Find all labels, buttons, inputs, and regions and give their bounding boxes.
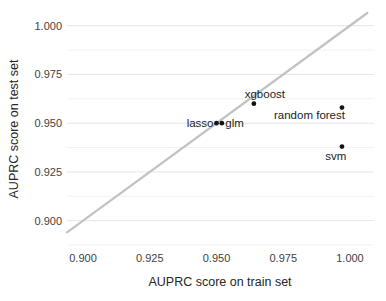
x-tick-label: 0.950	[203, 252, 231, 264]
x-tick-label: 0.975	[269, 252, 297, 264]
point-label: glm	[225, 117, 244, 129]
point-label: random forest	[274, 109, 346, 121]
point-label: svm	[325, 150, 346, 162]
x-tick-label: 1.000	[336, 252, 364, 264]
chart-canvas: lassoglmxgboostrandom forestsvm0.9000.92…	[0, 0, 386, 301]
point-label: xgboost	[245, 88, 286, 100]
scatter-point	[219, 121, 224, 126]
x-tick-label: 0.925	[136, 252, 164, 264]
scatter-plot-figure: lassoglmxgboostrandom forestsvm0.9000.92…	[0, 0, 386, 301]
x-tick-label: 0.900	[69, 252, 97, 264]
x-axis-title: AUPRC score on train set	[148, 275, 291, 289]
y-tick-label: 0.950	[34, 117, 62, 129]
point-label: lasso	[187, 117, 214, 129]
y-tick-label: 0.900	[34, 215, 62, 227]
scatter-point	[214, 121, 219, 126]
y-tick-label: 0.975	[34, 68, 62, 80]
y-tick-label: 0.925	[34, 166, 62, 178]
scatter-point	[340, 144, 345, 149]
y-tick-label: 1.000	[34, 20, 62, 32]
scatter-point	[251, 101, 256, 106]
y-axis-title: AUPRC score on test set	[7, 60, 21, 199]
